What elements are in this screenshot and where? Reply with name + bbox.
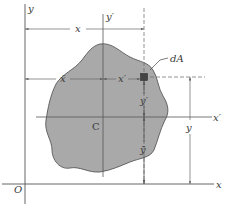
dim-x-label: x <box>75 23 81 34</box>
irregular-area <box>46 44 168 172</box>
origin-label: O <box>14 184 22 195</box>
da-element <box>141 74 148 81</box>
x-prime-axis-label: x′ <box>213 112 222 123</box>
dim-x-bar-label: x̄ <box>60 73 66 84</box>
dim-y-bar-label: ȳ <box>139 144 146 155</box>
dim-x-prime-label: x′ <box>118 73 127 84</box>
dim-y-label: y <box>185 122 192 133</box>
x-axis-label: x <box>216 179 222 190</box>
da-leader-line <box>150 58 168 70</box>
y-prime-axis-label: y′ <box>105 11 115 22</box>
dim-y-prime-label: y′ <box>139 95 149 106</box>
centroid-label: C <box>92 121 100 132</box>
da-label: dA <box>170 53 184 64</box>
y-axis-label: y <box>27 3 34 14</box>
centroid-diagram: y x O y′ x′ C dA x x̄ x′ y′ ȳ y <box>0 0 227 212</box>
